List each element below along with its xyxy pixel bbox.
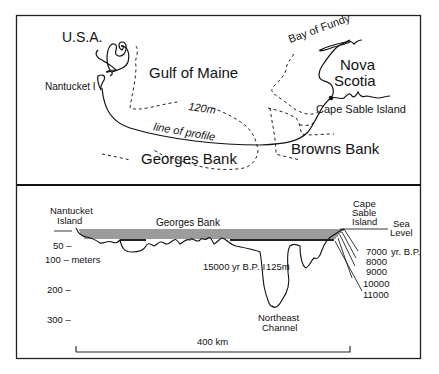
label-cape-sable: Cape Sable Island	[316, 103, 406, 115]
diagram-canvas: U.S.A. Nantucket I Gulf of Maine Bay of …	[0, 0, 439, 374]
age-label-yr-bp: yr. B.P.	[391, 246, 420, 257]
label-125m: 125m	[266, 261, 290, 272]
profile-label-georges-bank: Georges Bank	[156, 217, 221, 228]
age-label-11000: 11000	[363, 289, 389, 300]
label-contour-120m: 120m	[188, 100, 217, 116]
label-usa: U.S.A.	[62, 29, 102, 45]
nantucket-island-shape	[98, 75, 105, 90]
label-channel: Channel	[262, 322, 297, 333]
profile-label-level: Level	[390, 227, 413, 238]
profile-label-nantucket-2: Island	[57, 215, 82, 226]
depth-label-200: 200 –	[47, 284, 71, 295]
age-leader-lines	[335, 229, 362, 291]
depth-label-300: 300 –	[47, 314, 71, 325]
age-label-9000: 9000	[366, 266, 387, 277]
depth-label-50: 50 –	[53, 240, 72, 251]
label-nova: Nova	[340, 56, 376, 73]
label-bay-of-fundy: Bay of Fundy	[287, 11, 352, 45]
bay-of-fundy-coastline	[320, 40, 362, 51]
label-georges-bank: Georges Bank	[141, 150, 237, 167]
profile-label-cape-3: Island	[352, 216, 377, 227]
age-label-10000: 10000	[363, 278, 389, 289]
profile-panel: Nantucket Island Georges Bank Cape Sable…	[45, 198, 420, 352]
label-scale-400km: 400 km	[197, 336, 228, 347]
label-scotia: Scotia	[334, 72, 376, 89]
line-of-profile	[102, 88, 331, 145]
label-15000-bp: 15000 yr B.P.	[203, 261, 259, 272]
usa-coastline	[96, 42, 126, 76]
label-nantucket: Nantucket I	[45, 81, 96, 92]
map-panel: U.S.A. Nantucket I Gulf of Maine Bay of …	[45, 11, 406, 169]
label-gulf-of-maine: Gulf of Maine	[149, 64, 238, 81]
depth-label-100: 100 – meters	[45, 254, 101, 265]
label-browns-bank: Browns Bank	[291, 140, 380, 157]
